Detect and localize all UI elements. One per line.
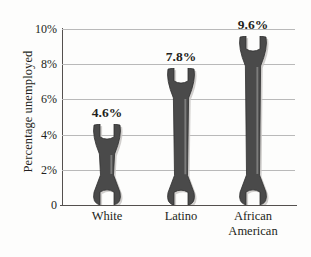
bar-wrench-latino: [159, 68, 203, 205]
bar-group-latino: 7.8%: [153, 29, 209, 205]
bar-group-white: 4.6%: [79, 29, 135, 205]
x-axis-label-line: African: [210, 209, 296, 224]
y-tick-label-8: 8%: [5, 57, 57, 72]
bar-wrench-african-american: [231, 36, 275, 205]
wrench-icon: [159, 68, 203, 205]
y-tick-label-4: 4%: [5, 127, 57, 142]
y-tick-label-0: 0: [5, 198, 57, 213]
wrench-icon: [231, 36, 275, 205]
bar-value-label-latino: 7.8%: [166, 49, 196, 65]
y-tick-label-10: 10%: [5, 22, 57, 37]
unemployment-bar-chart: Percentage unemployed 10% 8% 6% 4% 2% 0 …: [0, 0, 311, 257]
bar-group-african-american: 9.6%: [225, 29, 281, 205]
x-axis-label-african-american: AfricanAmerican: [210, 209, 296, 239]
x-axis-category-labels: White Latino AfricanAmerican: [62, 209, 295, 257]
x-axis-baseline: [60, 205, 297, 206]
bar-value-label-white: 4.6%: [92, 105, 122, 121]
plot-area: 4.6% 7.8% 9.6%: [62, 29, 295, 205]
wrench-icon: [85, 124, 129, 205]
bar-wrench-white: [85, 124, 129, 205]
bar-value-label-african-american: 9.6%: [238, 17, 268, 33]
y-tick-label-2: 2%: [5, 162, 57, 177]
x-axis-label-line: American: [210, 224, 296, 239]
y-axis-tick-labels: 10% 8% 6% 4% 2% 0: [0, 29, 57, 205]
y-tick-label-6: 6%: [5, 92, 57, 107]
